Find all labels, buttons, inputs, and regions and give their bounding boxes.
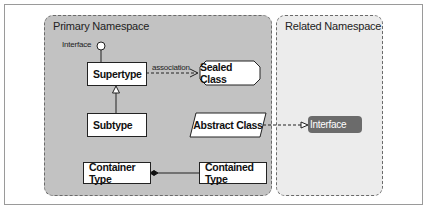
container-type-node[interactable]: Container Type [83, 162, 151, 184]
abstract-class-node[interactable]: Abstract Class [190, 113, 266, 137]
related-namespace-title: Related Namespace [285, 20, 381, 32]
lollipop-interface-label: Interface [62, 40, 91, 49]
association-label: association [152, 63, 190, 72]
related-interface-node[interactable]: Interface [308, 116, 362, 133]
related-namespace-panel: Related Namespace [276, 15, 383, 196]
supertype-node[interactable]: Supertype [87, 62, 147, 86]
contained-type-node[interactable]: Contained Type [199, 162, 267, 184]
sealed-class-node[interactable]: Sealed Class [200, 61, 260, 85]
primary-namespace-title: Primary Namespace [53, 20, 149, 32]
subtype-node[interactable]: Subtype [87, 113, 147, 137]
